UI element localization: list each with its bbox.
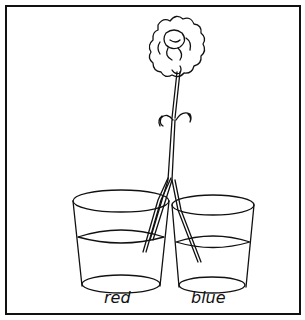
red-cup-icon bbox=[73, 190, 169, 293]
leaf-icon bbox=[159, 115, 173, 126]
cup-label-red: red bbox=[104, 288, 131, 307]
stem-icon bbox=[172, 72, 180, 118]
leaf-icon bbox=[176, 113, 191, 122]
carnation-illustration bbox=[0, 0, 305, 320]
blue-cup-icon bbox=[172, 195, 254, 293]
cup-label-blue: blue bbox=[191, 288, 226, 307]
carnation-flower-icon bbox=[149, 16, 204, 76]
